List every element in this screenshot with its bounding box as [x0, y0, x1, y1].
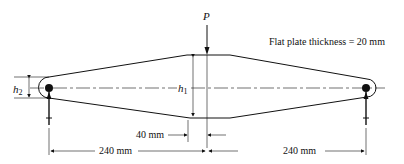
left-pin-icon [45, 84, 53, 92]
load-arrow [205, 25, 210, 148]
right-span-label: 240 mm [283, 146, 316, 156]
load-label: P [203, 11, 210, 22]
left-span-label: 240 mm [99, 146, 132, 156]
flat-length-label: 40 mm [136, 130, 164, 140]
flat-length-dimension [168, 120, 226, 142]
span-dimensions [49, 128, 366, 155]
thickness-note: Flat plate thickness = 20 mm [269, 37, 385, 47]
h2-label: h2 [13, 84, 23, 97]
right-pin-icon [362, 84, 370, 92]
h1-label: h1 [177, 83, 189, 96]
left-reaction-arrow [46, 92, 52, 125]
h2-subscript: 2 [19, 88, 23, 97]
h1-subscript: 1 [184, 87, 188, 96]
beam-diagram [0, 0, 404, 164]
